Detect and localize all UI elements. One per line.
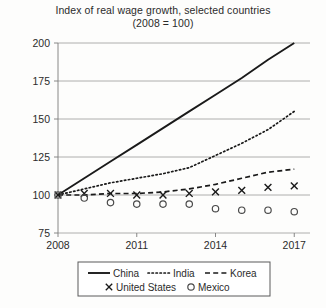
legend-item-china[interactable]: China	[113, 268, 140, 279]
x-tick-label: 2017	[283, 239, 307, 251]
legend-item-india[interactable]: India	[173, 268, 195, 279]
x-axis: 2008201120142017	[46, 233, 306, 251]
x-tick-label: 2008	[46, 239, 70, 251]
marker-circle-mexico	[107, 199, 113, 205]
marker-circle-mexico	[239, 207, 245, 213]
y-tick-label: 125	[32, 151, 50, 163]
marker-x-united-states	[291, 182, 298, 189]
chart-container: Index of real wage growth, selected coun…	[0, 0, 326, 308]
y-tick-label: 100	[32, 189, 50, 201]
y-tick-label: 200	[32, 37, 50, 49]
marker-circle-mexico	[212, 205, 218, 211]
marker-circle-mexico	[134, 201, 140, 207]
marker-circle-mexico	[186, 201, 192, 207]
y-tick-label: 75	[38, 227, 50, 239]
series-layer	[55, 43, 298, 215]
marker-circle-mexico	[291, 209, 297, 215]
marker-circle-mexico	[265, 207, 271, 213]
x-tick-label: 2014	[204, 239, 228, 251]
chart-legend: ChinaIndiaKoreaUnited StatesMexico	[78, 262, 270, 296]
marker-x-united-states	[186, 190, 193, 197]
series-line-india	[58, 111, 294, 195]
y-tick-label: 175	[32, 75, 50, 87]
legend-item-united-states[interactable]: United States	[116, 282, 176, 293]
marker-circle-mexico	[160, 201, 166, 207]
legend-item-korea[interactable]: Korea	[230, 268, 257, 279]
y-axis: 75100125150175200	[32, 37, 58, 239]
marker-x-united-states	[212, 189, 219, 196]
marker-x-united-states	[265, 184, 272, 191]
legend-item-mexico[interactable]: Mexico	[198, 282, 230, 293]
marker-x-united-states	[238, 187, 245, 194]
chart-plot: 75100125150175200 2008201120142017 China…	[0, 0, 326, 308]
grid-lines	[58, 43, 310, 233]
y-tick-label: 150	[32, 113, 50, 125]
x-tick-label: 2011	[125, 239, 148, 251]
